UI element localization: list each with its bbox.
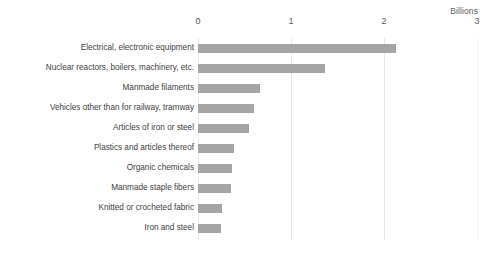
category-label: Manmade staple fibers (111, 178, 194, 198)
category-label: Organic chemicals (127, 158, 194, 178)
bar (198, 224, 221, 233)
bar (198, 44, 396, 53)
x-tick-label: 2 (364, 16, 404, 26)
chart-row: Organic chemicals (198, 158, 477, 178)
chart-row: Vehicles other than for railway, tramway (198, 98, 477, 118)
category-label: Plastics and articles thereof (94, 138, 194, 158)
chart-row: Iron and steel (198, 218, 477, 238)
bar (198, 204, 222, 213)
x-tick-label: 1 (271, 16, 311, 26)
chart-row: Manmade staple fibers (198, 178, 477, 198)
bar (198, 124, 249, 133)
bar-chart: Billions 0123Electrical, electronic equi… (0, 0, 492, 254)
axis-title-billions: Billions (380, 6, 478, 16)
category-label: Iron and steel (144, 218, 194, 238)
chart-row: Nuclear reactors, boilers, machinery, et… (198, 58, 477, 78)
category-label: Knitted or crocheted fabric (98, 198, 194, 218)
x-tick-label: 0 (178, 16, 218, 26)
plot-area: 0123Electrical, electronic equipmentNucl… (198, 38, 477, 240)
gridline-3 (477, 38, 478, 240)
chart-row: Articles of iron or steel (198, 118, 477, 138)
category-label: Manmade filaments (123, 78, 194, 98)
category-label: Vehicles other than for railway, tramway (50, 98, 194, 118)
chart-row: Plastics and articles thereof (198, 138, 477, 158)
chart-row: Manmade filaments (198, 78, 477, 98)
category-label: Electrical, electronic equipment (81, 38, 194, 58)
chart-row: Electrical, electronic equipment (198, 38, 477, 58)
category-label: Articles of iron or steel (113, 118, 194, 138)
bar (198, 164, 232, 173)
bar (198, 104, 254, 113)
bar (198, 184, 231, 193)
x-tick-label: 3 (457, 16, 492, 26)
chart-row: Knitted or crocheted fabric (198, 198, 477, 218)
bar (198, 144, 234, 153)
category-label: Nuclear reactors, boilers, machinery, et… (46, 58, 194, 78)
bar (198, 64, 325, 73)
bar (198, 84, 260, 93)
